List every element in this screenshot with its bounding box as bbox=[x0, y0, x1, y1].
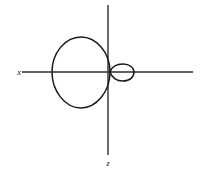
x-axis-label: x bbox=[16, 67, 21, 77]
z-axis-label: z bbox=[105, 158, 110, 168]
limacon-plot-svg: x z bbox=[0, 0, 203, 173]
figure-canvas: x z bbox=[0, 0, 203, 173]
